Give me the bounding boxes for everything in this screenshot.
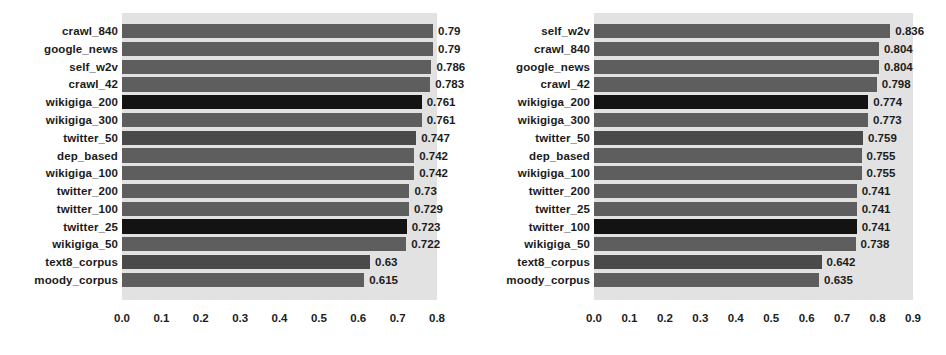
bar-row: crawl_420.798 (473, 77, 946, 91)
bar (594, 237, 856, 251)
bar (122, 184, 409, 198)
x-axis-tick-label: 0.9 (905, 312, 921, 324)
bar-row: wikigiga_3000.761 (0, 113, 473, 127)
bar-row: twitter_1000.741 (473, 219, 946, 233)
bar (122, 202, 409, 216)
category-label: google_news (44, 43, 118, 55)
category-label: google_news (516, 61, 590, 73)
bar-value-label: 0.761 (427, 114, 456, 126)
bar (122, 77, 430, 91)
bar-value-label: 0.755 (867, 150, 896, 162)
bar (594, 148, 862, 162)
category-label: moody_corpus (34, 274, 118, 286)
bar-value-label: 0.722 (411, 238, 440, 250)
bar-value-label: 0.786 (436, 61, 465, 73)
bar-row: twitter_250.723 (0, 219, 473, 233)
bar-value-label: 0.761 (427, 96, 456, 108)
bar-row: crawl_8400.804 (473, 42, 946, 56)
bar-row: wikigiga_500.738 (473, 237, 946, 251)
x-axis-tick-label: 0.1 (621, 312, 637, 324)
bar (594, 42, 879, 56)
bar (594, 95, 868, 109)
x-axis-tick-label: 0.6 (799, 312, 815, 324)
bar-row: crawl_8400.79 (0, 24, 473, 38)
bar-value-label: 0.723 (412, 221, 441, 233)
category-label: self_w2v (69, 61, 118, 73)
bar-row: text8_corpus0.642 (473, 255, 946, 269)
bar (594, 166, 862, 180)
bar-value-label: 0.615 (369, 274, 398, 286)
bar-row: dep_based0.755 (473, 148, 946, 162)
category-label: twitter_100 (57, 203, 118, 215)
bar-row: wikigiga_3000.773 (473, 113, 946, 127)
bar-value-label: 0.742 (419, 167, 448, 179)
category-label: twitter_200 (529, 185, 590, 197)
bar-row: wikigiga_500.722 (0, 237, 473, 251)
bar-row: self_w2v0.786 (0, 60, 473, 74)
bar-row: google_news0.79 (0, 42, 473, 56)
bar (594, 219, 857, 233)
bar-row: wikigiga_2000.761 (0, 95, 473, 109)
x-axis-tick-label: 0.4 (728, 312, 744, 324)
bar-value-label: 0.774 (873, 96, 902, 108)
x-axis-tick-label: 0.2 (657, 312, 673, 324)
bar-value-label: 0.783 (435, 78, 464, 90)
bar-value-label: 0.79 (438, 25, 460, 37)
x-axis-tick-label: 0.2 (193, 312, 209, 324)
bar-row: wikigiga_1000.755 (473, 166, 946, 180)
bar-value-label: 0.798 (882, 78, 911, 90)
category-label: crawl_840 (62, 25, 118, 37)
bar-value-label: 0.742 (419, 150, 448, 162)
category-label: text8_corpus (517, 256, 590, 268)
bar-chart-right: self_w2v0.836crawl_8400.804google_news0.… (473, 0, 946, 355)
category-label: twitter_200 (57, 185, 118, 197)
category-label: wikigiga_200 (46, 96, 118, 108)
bar-row: twitter_500.747 (0, 131, 473, 145)
x-axis-tick-label: 0.1 (153, 312, 169, 324)
bar (594, 131, 863, 145)
bar (594, 113, 868, 127)
category-label: moody_corpus (506, 274, 590, 286)
bar-row: twitter_500.759 (473, 131, 946, 145)
category-label: crawl_840 (534, 43, 590, 55)
bar-rows-left: crawl_8400.79google_news0.79self_w2v0.78… (0, 0, 473, 355)
bar (594, 255, 822, 269)
bar-row: twitter_2000.73 (0, 184, 473, 198)
bar-row: google_news0.804 (473, 60, 946, 74)
x-axis-tick-label: 0.7 (834, 312, 850, 324)
bar-row: self_w2v0.836 (473, 24, 946, 38)
bar-value-label: 0.836 (895, 25, 924, 37)
category-label: twitter_50 (63, 132, 118, 144)
bar (594, 24, 890, 38)
bar-chart-left: crawl_8400.79google_news0.79self_w2v0.78… (0, 0, 473, 355)
x-axis-tick-label: 0.7 (390, 312, 406, 324)
bar-value-label: 0.755 (867, 167, 896, 179)
x-axis-tick-label: 0.3 (692, 312, 708, 324)
bar (122, 255, 370, 269)
x-axis-tick-label: 0.8 (870, 312, 886, 324)
bar (122, 148, 414, 162)
bar-value-label: 0.773 (873, 114, 902, 126)
bar (594, 202, 857, 216)
bar (122, 166, 414, 180)
category-label: wikigiga_50 (524, 238, 590, 250)
bar (122, 237, 406, 251)
category-label: dep_based (57, 150, 118, 162)
bar (122, 60, 431, 74)
category-label: wikigiga_100 (46, 167, 118, 179)
bar-row: moody_corpus0.615 (0, 273, 473, 287)
category-label: wikigiga_300 (518, 114, 590, 126)
bar-value-label: 0.729 (414, 203, 443, 215)
category-label: wikigiga_50 (52, 238, 118, 250)
bar-value-label: 0.635 (824, 274, 853, 286)
bar-row: twitter_2000.741 (473, 184, 946, 198)
bar (122, 273, 364, 287)
bar (594, 60, 879, 74)
bar-value-label: 0.804 (884, 61, 913, 73)
x-axis-tick-label: 0.5 (763, 312, 779, 324)
category-label: twitter_100 (529, 221, 590, 233)
x-axis-tick-label: 0.3 (232, 312, 248, 324)
bar (122, 219, 407, 233)
x-axis-tick-label: 0.0 (586, 312, 602, 324)
bar-value-label: 0.738 (861, 238, 890, 250)
